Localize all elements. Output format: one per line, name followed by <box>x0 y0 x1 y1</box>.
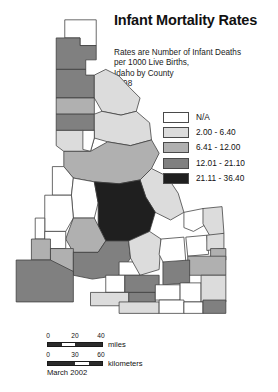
legend-swatch <box>163 142 189 153</box>
legend-swatch <box>163 112 189 123</box>
county-power <box>155 285 180 300</box>
scale-tick: 40 <box>97 332 104 339</box>
legend: N/A 2.00 - 6.40 6.41 - 12.00 12.01 - 21.… <box>163 110 275 186</box>
scale-segment <box>75 343 89 347</box>
county-latah <box>56 114 94 130</box>
scale-segment <box>48 362 62 366</box>
scale-tick: 60 <box>97 351 104 358</box>
county-valley <box>71 178 98 218</box>
scale-miles: 0 20 40 miles <box>47 332 197 349</box>
legend-label: 12.01 - 21.10 <box>196 159 245 168</box>
county-kootenai <box>56 69 94 98</box>
scale-ticks-miles: 0 20 40 <box>47 332 103 340</box>
county-madison <box>207 233 224 250</box>
county-canyon <box>31 239 50 260</box>
scale-tick: 0 <box>46 332 50 339</box>
county-lincoln <box>125 275 159 292</box>
scale-segment <box>62 362 76 366</box>
county-lewis <box>83 130 94 151</box>
scale-ticks-kilometers: 0 30 60 <box>47 351 103 359</box>
scale-unit-label-kilometers: kilometers <box>108 359 143 368</box>
legend-row: N/A <box>163 110 275 125</box>
map-date-stamp: March 2002 <box>47 368 87 377</box>
scale-bar-kilometers <box>47 361 103 367</box>
scale-segment <box>89 362 103 366</box>
scale-tick: 20 <box>71 332 78 339</box>
scale-block: 0 20 40 miles 0 30 60 <box>47 332 197 370</box>
county-payette <box>35 218 45 239</box>
scale-tick: 30 <box>71 351 78 358</box>
legend-label: 21.11 - 36.40 <box>196 174 244 183</box>
legend-label: 2.00 - 6.40 <box>196 128 236 137</box>
county-benewah <box>56 98 94 114</box>
legend-row: 2.00 - 6.40 <box>163 125 275 140</box>
legend-swatch <box>163 158 189 169</box>
county-bannock <box>180 283 201 302</box>
map-page: Infant Mortality Rates Rates are Number … <box>0 0 278 392</box>
scale-segment <box>62 343 76 347</box>
scale-row-kilometers: kilometers <box>47 359 197 368</box>
county-cassia <box>119 302 159 313</box>
county-caribou <box>201 275 226 302</box>
scale-tick: 0 <box>46 351 50 358</box>
legend-swatch <box>163 173 189 184</box>
county-bingham <box>163 260 190 285</box>
county-washington <box>45 195 74 231</box>
county-clearwater <box>94 111 151 145</box>
legend-row: 21.11 - 36.40 <box>163 171 275 186</box>
scale-segment <box>75 362 89 366</box>
scale-segment <box>48 343 62 347</box>
legend-row: 12.01 - 21.10 <box>163 156 275 171</box>
county-jefferson <box>186 235 209 256</box>
legend-swatch <box>163 127 189 138</box>
county-bonneville <box>188 256 226 275</box>
legend-row: 6.41 - 12.00 <box>163 140 275 155</box>
scale-segment <box>89 343 103 347</box>
scale-kilometers: 0 30 60 kilometers <box>47 351 197 368</box>
county-fremont <box>203 207 224 238</box>
county-franklin <box>184 302 203 313</box>
scale-row-miles: miles <box>47 340 197 349</box>
county-gooding <box>106 275 125 292</box>
county-shoshone <box>94 69 140 115</box>
scale-unit-label-miles: miles <box>108 340 126 349</box>
county-bear-lake <box>203 300 226 313</box>
county-oneida <box>159 300 184 313</box>
legend-label: N/A <box>196 113 210 122</box>
legend-label: 6.41 - 12.00 <box>196 143 240 152</box>
scale-bar-miles <box>47 342 103 348</box>
